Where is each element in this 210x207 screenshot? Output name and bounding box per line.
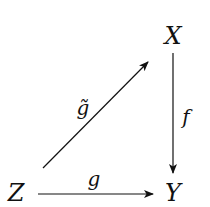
commutative-diagram: X Y Z g̃ f g	[0, 0, 210, 207]
node-x: X	[164, 24, 181, 48]
node-y: Y	[165, 181, 181, 205]
label-g: g	[88, 169, 101, 189]
label-f: f	[182, 107, 189, 127]
arrow-g-tilde	[43, 62, 148, 168]
node-z: Z	[8, 181, 25, 205]
label-g-tilde: g̃	[77, 98, 90, 118]
